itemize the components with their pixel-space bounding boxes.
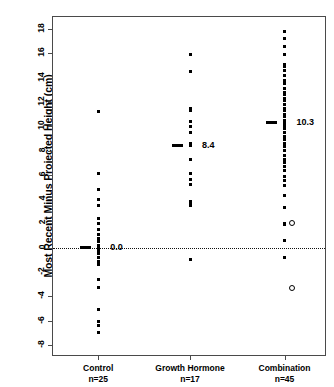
data-point: [283, 256, 286, 259]
y-axis-tick-label: 8: [40, 145, 45, 155]
outlier-point: [289, 285, 295, 291]
y-axis-tick: [48, 199, 53, 200]
y-axis-tick-label: 16: [36, 47, 45, 57]
data-point: [97, 237, 100, 240]
chart-figure: Most Recent Minus Projected Height (cm) …: [0, 0, 334, 387]
data-point: [97, 324, 100, 327]
data-point: [283, 179, 286, 182]
outlier-point: [289, 220, 295, 226]
data-point: [189, 70, 192, 73]
mean-marker: [266, 121, 277, 125]
data-point: [97, 228, 100, 231]
data-point: [283, 65, 286, 68]
y-axis-tick-label: 10: [36, 120, 45, 130]
data-point: [97, 260, 100, 263]
data-point: [283, 115, 286, 118]
group-name: Combination: [225, 363, 334, 374]
data-point: [283, 161, 286, 164]
data-point: [283, 37, 286, 40]
y-axis-tick-label: 4: [40, 193, 45, 203]
y-axis-tick-label: 18: [36, 23, 45, 33]
data-point: [189, 109, 192, 112]
y-axis-tick-label: 14: [36, 72, 45, 82]
data-point: [189, 144, 192, 147]
data-point: [283, 109, 286, 112]
data-point: [97, 222, 100, 225]
mean-marker: [172, 144, 183, 148]
x-axis-tick: [190, 355, 191, 360]
data-point: [189, 53, 192, 56]
data-point: [97, 188, 100, 191]
data-point: [283, 69, 286, 72]
data-point: [97, 308, 100, 311]
data-point: [283, 135, 286, 138]
data-point: [189, 204, 192, 207]
y-axis-tick: [48, 102, 53, 103]
mean-value-label: 0.0: [110, 242, 123, 252]
data-point: [189, 258, 192, 261]
y-axis-tick: [48, 345, 53, 346]
data-point: [283, 124, 286, 127]
y-axis-tick-label: -8: [37, 339, 45, 349]
data-point: [283, 175, 286, 178]
data-point: [283, 154, 286, 157]
data-point: [97, 110, 100, 113]
data-point: [97, 278, 100, 281]
data-point: [189, 158, 192, 161]
data-point: [189, 120, 192, 123]
x-axis-tick: [98, 355, 99, 360]
data-point: [283, 93, 286, 96]
data-point: [283, 79, 286, 82]
data-point: [283, 74, 286, 77]
data-point: [283, 169, 286, 172]
y-axis-tick-label: 0: [40, 242, 45, 252]
y-axis-tick: [48, 272, 53, 273]
data-point: [189, 178, 192, 181]
data-point: [97, 320, 100, 323]
plot-area: -8-6-4-2024681012141618Controln=250.0Gro…: [52, 16, 326, 356]
data-point: [283, 45, 286, 48]
data-point: [283, 127, 286, 130]
y-axis-tick: [48, 296, 53, 297]
data-point: [97, 198, 100, 201]
y-axis-tick: [48, 151, 53, 152]
data-point: [97, 252, 100, 255]
data-point: [189, 172, 192, 175]
y-axis-tick: [48, 126, 53, 127]
data-point: [283, 145, 286, 148]
y-axis-tick-label: -6: [37, 315, 45, 325]
data-point: [97, 233, 100, 236]
data-point: [283, 53, 286, 56]
data-point: [97, 172, 100, 175]
y-axis-tick: [48, 78, 53, 79]
y-axis-tick: [48, 223, 53, 224]
y-axis-tick-label: -4: [37, 290, 45, 300]
data-point: [283, 223, 286, 226]
data-point: [97, 249, 100, 252]
data-point: [283, 158, 286, 161]
y-axis-tick: [48, 248, 53, 249]
data-point: [97, 286, 100, 289]
data-point: [189, 131, 192, 134]
data-point: [283, 82, 286, 85]
y-axis-tick: [48, 53, 53, 54]
data-point: [97, 331, 100, 334]
data-point: [97, 263, 100, 266]
y-axis-tick: [48, 321, 53, 322]
data-point: [97, 217, 100, 220]
y-axis-tick: [48, 29, 53, 30]
data-point: [283, 131, 286, 134]
zero-reference-line: [53, 248, 325, 249]
data-point: [283, 149, 286, 152]
data-point: [283, 206, 286, 209]
y-axis-tick-label: 12: [36, 96, 45, 106]
y-axis-tick-label: 6: [40, 169, 45, 179]
data-point: [283, 99, 286, 102]
data-point: [283, 103, 286, 106]
mean-marker: [80, 246, 91, 250]
data-point: [97, 256, 100, 259]
data-point: [189, 183, 192, 186]
y-axis-tick-label: 2: [40, 217, 45, 227]
data-point: [283, 165, 286, 168]
data-point: [283, 239, 286, 242]
